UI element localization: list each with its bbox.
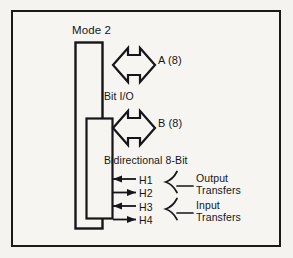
bus-arrow-b-icon [113,111,155,145]
brace-output-group [166,172,193,193]
bidirectional-caption: Bidirectional 8-Bit [104,154,188,166]
bus-arrow-a-icon [113,48,155,82]
h1-label: H1 [139,174,153,186]
handshake-line-h1 [113,175,136,182]
bus-a-label: A (8) [158,54,182,67]
h3-label: H3 [139,201,153,213]
port-inner-rectangle [87,119,113,219]
bit-io-caption: Bit I/O [104,90,134,102]
mode-2-diagram: Mode 2 A (8) Bit I/O B (8) Bidirectional… [0,0,293,258]
bus-b-label: B (8) [158,117,182,130]
input-transfers-label: Input Transfers [196,199,241,224]
handshake-line-h4 [113,216,136,223]
output-transfers-line2: Transfers [196,184,241,196]
h4-label: H4 [139,214,153,226]
handshake-line-h3 [113,202,136,209]
h2-label: H2 [139,187,153,199]
output-transfers-line1: Output [196,172,241,184]
brace-input-group [166,199,193,220]
input-transfers-line1: Input [196,199,241,211]
page-title: Mode 2 [72,24,111,38]
output-transfers-label: Output Transfers [196,172,241,197]
input-transfers-line2: Transfers [196,211,241,223]
handshake-line-h2 [113,189,136,196]
